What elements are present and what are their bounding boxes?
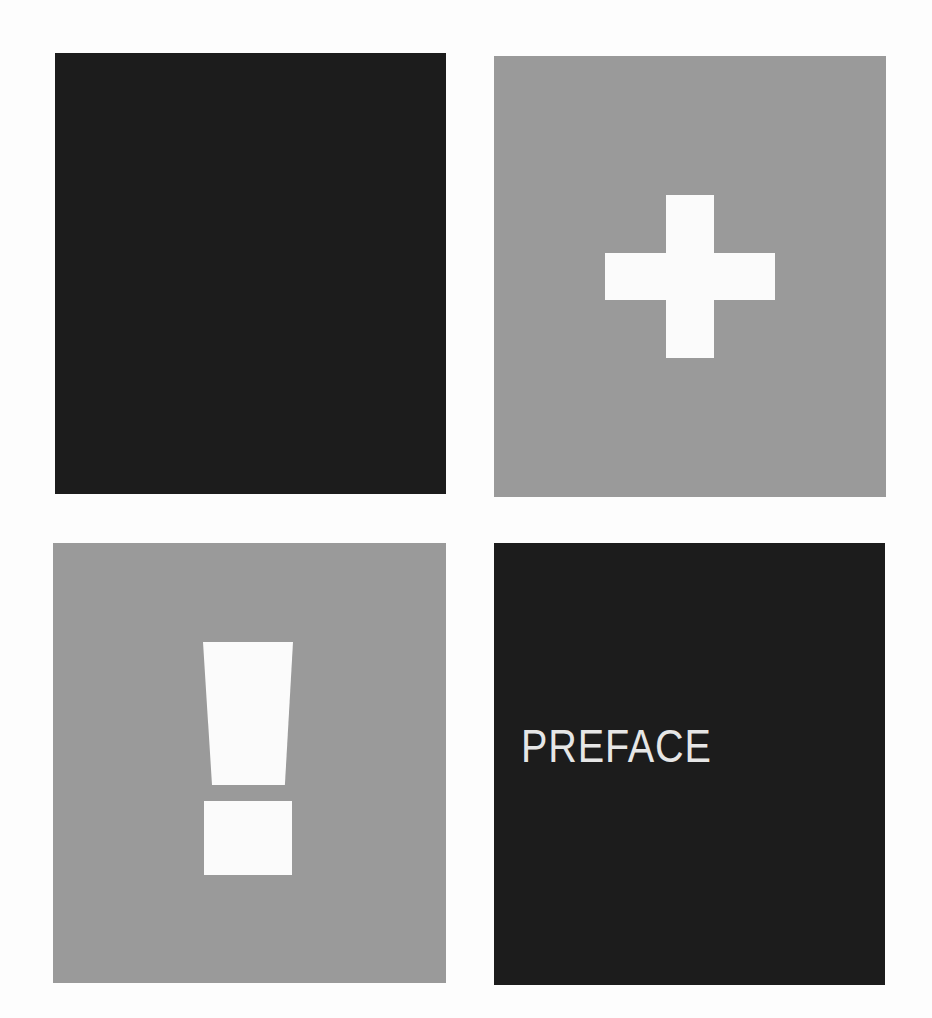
section-title: PREFACE (521, 723, 712, 769)
dark-panel-bottom-right: PREFACE (494, 543, 885, 985)
exclamation-icon-bar (203, 642, 293, 785)
gray-panel-top-right (494, 56, 886, 497)
dark-panel-top-left (55, 53, 446, 494)
gray-panel-bottom-left (53, 543, 446, 983)
exclamation-icon-dot (204, 801, 292, 875)
plus-icon-horizontal-bar (605, 253, 775, 300)
